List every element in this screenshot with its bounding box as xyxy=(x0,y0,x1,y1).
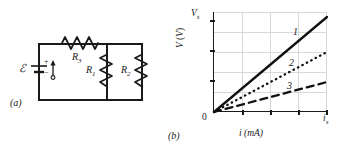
emf-terminal-dot xyxy=(51,76,55,80)
x-axis-max-label: is xyxy=(323,113,328,126)
circuit-diagram-panel: ℰ + − R3 R1 R2 (a) xyxy=(0,0,173,151)
data-series-group xyxy=(214,12,327,112)
resistor-r3-zigzag xyxy=(62,37,98,49)
resistor-r1-zigzag xyxy=(100,55,112,86)
two-panel-physics-figure: ℰ + − R3 R1 R2 (a) xyxy=(0,0,346,151)
plot-area: 1 2 3 xyxy=(213,12,326,112)
series-1-label: 1 xyxy=(293,26,298,37)
battery-minus-sign: − xyxy=(44,69,49,77)
emf-arrow-head xyxy=(50,60,55,66)
series-1-line xyxy=(214,17,327,112)
origin-label: 0 xyxy=(202,112,207,122)
resistor-r2-zigzag xyxy=(135,55,147,86)
resistor-r1-label: R1 xyxy=(86,64,96,78)
x-axis-title: i (mA) xyxy=(239,128,263,138)
resistor-r3-label: R3 xyxy=(72,51,82,65)
series-2-line xyxy=(214,52,327,112)
graph-panel: 1 2 3 V (V) i (mA) Vs is 0 (b) xyxy=(173,0,346,151)
resistor-r2-label: R2 xyxy=(121,64,131,78)
panel-b-caption: (b) xyxy=(168,130,180,141)
y-axis-max-label: Vs xyxy=(191,8,200,21)
battery-plus-sign: + xyxy=(44,58,49,66)
y-axis-title: V (V) xyxy=(175,28,185,48)
emf-source-label: ℰ xyxy=(19,62,26,75)
series-2-label: 2 xyxy=(289,57,294,68)
panel-a-caption: (a) xyxy=(10,97,22,108)
series-3-label: 3 xyxy=(287,80,292,91)
